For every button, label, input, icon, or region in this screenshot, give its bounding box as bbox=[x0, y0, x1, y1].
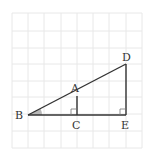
label-c: C bbox=[72, 119, 80, 132]
label-e: E bbox=[121, 119, 129, 132]
label-b: B bbox=[15, 109, 23, 122]
label-a: A bbox=[70, 82, 80, 95]
label-d: D bbox=[122, 51, 131, 64]
geometry-figure: A B C D E bbox=[0, 0, 150, 160]
